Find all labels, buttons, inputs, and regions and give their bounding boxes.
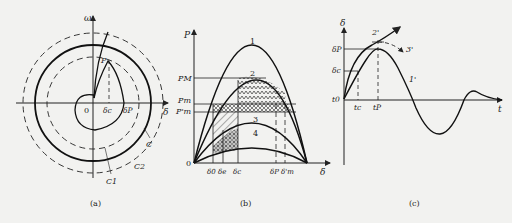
curve-1-prime-label: 1' xyxy=(409,75,416,84)
caption-a: (a) xyxy=(90,199,101,208)
delta-p-label: δP xyxy=(123,106,134,115)
curve-c-label: C xyxy=(146,140,152,149)
tp-label: tP xyxy=(373,103,382,112)
panel-c-angle-time: δ t δP δc t0 tc tP 2' 3' 1' (c) xyxy=(332,18,502,208)
omega-axis-label: ω xyxy=(84,13,92,23)
caption-c: (c) xyxy=(409,199,420,208)
area-crosshatch-top xyxy=(213,104,292,112)
tick-delta-0: δ0 xyxy=(207,168,216,176)
pm-label: Pm xyxy=(177,96,191,105)
origin-label: 0 xyxy=(84,106,89,115)
tick-delta-c: δc xyxy=(233,168,241,176)
curve-3-label: 3 xyxy=(253,115,258,124)
curve-2-prime-label: 2' xyxy=(371,28,379,37)
origin-label: 0 xyxy=(186,159,191,168)
curve-2-prime xyxy=(344,27,400,99)
curve-2-label: 2 xyxy=(250,69,255,78)
tick-delta-m-prime: δ'm xyxy=(281,168,294,176)
tc-label: tc xyxy=(354,103,362,112)
delta-c-label: δc xyxy=(332,66,342,75)
pm-top-label: PM xyxy=(177,74,192,83)
delta-axis-label: δ xyxy=(340,18,345,28)
curve-4-label: 4 xyxy=(253,129,258,138)
point-p-label: P xyxy=(100,56,107,65)
panel-a-phase-plane: ω δ 0 P δc δP C C2 C1 (a) xyxy=(16,13,168,208)
curve-3-prime-label: 3' xyxy=(406,45,413,54)
delta-p-label: δP xyxy=(332,45,343,54)
delta-axis-label: δ xyxy=(320,167,325,177)
tick-delta-e: δe xyxy=(218,168,226,176)
curve-3-prime xyxy=(378,42,403,52)
p-axis-label: P xyxy=(183,30,191,40)
panel-b-power-angle: P δ 0 PM Pm P'm 1 2 3 4 δ0 δe δc δP δ'm … xyxy=(175,30,330,208)
curve-1-label: 1 xyxy=(250,37,255,46)
t0-label: t0 xyxy=(332,95,340,104)
tick-delta-p: δP xyxy=(270,168,279,176)
pm-prime-label: P'm xyxy=(175,107,192,116)
stable-trajectory xyxy=(75,61,124,130)
t-axis-label: t xyxy=(498,104,502,114)
curve-3 xyxy=(194,123,307,163)
curve-1-prime xyxy=(344,49,502,134)
curve-c2-label: C2 xyxy=(134,162,145,171)
delta-c-label: δc xyxy=(103,106,113,115)
delta-axis-label: δ xyxy=(163,107,168,117)
caption-b: (b) xyxy=(240,199,251,208)
curve-4 xyxy=(194,148,307,163)
curve-c1-label: C1 xyxy=(106,177,117,186)
